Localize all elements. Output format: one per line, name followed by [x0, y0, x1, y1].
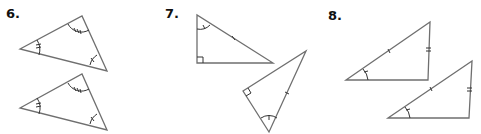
- triangle-8b: [388, 61, 472, 118]
- triangle-6a: [20, 16, 107, 71]
- triangle-6b: [20, 74, 107, 130]
- figures-canvas: [0, 0, 481, 134]
- triangle-8a: [346, 22, 431, 80]
- triangle-7a: [197, 15, 273, 63]
